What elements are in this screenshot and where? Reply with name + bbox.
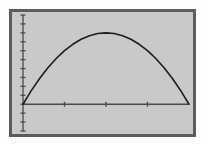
figure-root [0,0,205,145]
series-line-parabola [23,33,189,104]
plot-canvas [12,12,193,134]
plot-frame [9,9,196,137]
